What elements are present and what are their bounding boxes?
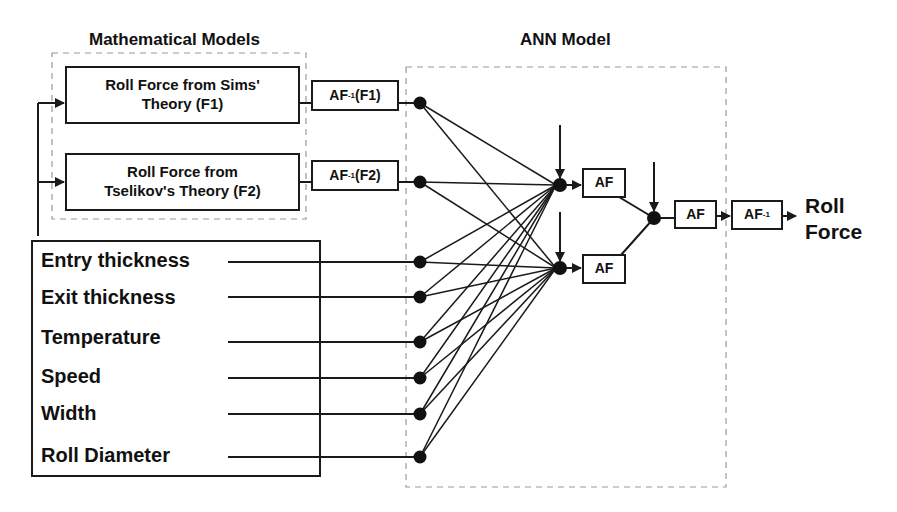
af-sup: -1: [348, 171, 355, 181]
af-prefix: AF: [329, 87, 348, 105]
input-roll-diameter: Roll Diameter: [41, 444, 170, 467]
tselikov-theory-box: Roll Force from Tselikov's Theory (F2): [65, 153, 300, 211]
output-label-line2: Force: [805, 219, 862, 245]
input-width: Width: [41, 402, 96, 425]
output-inverse-af-box: AF-1: [731, 200, 783, 230]
tselikov-theory-line2: Tselikov's Theory (F2): [104, 182, 261, 201]
input-features-box: [31, 240, 321, 477]
af-sup: -1: [763, 210, 770, 220]
af-prefix: AF: [744, 206, 763, 224]
af-suffix: (F2): [355, 167, 381, 185]
tselikov-theory-line1: Roll Force from: [127, 163, 238, 182]
output-label-line1: Roll: [805, 193, 862, 219]
hidden-af-2-box: AF: [582, 254, 626, 284]
inverse-af-f1-box: AF-1(F1): [311, 80, 399, 111]
ann-model-group: [406, 67, 726, 487]
af-prefix: AF: [329, 167, 348, 185]
input-entry-thickness: Entry thickness: [41, 249, 190, 272]
math-models-title: Mathematical Models: [89, 30, 260, 50]
output-af-box: AF: [674, 200, 717, 229]
ann-model-title: ANN Model: [520, 30, 611, 50]
af-sup: -1: [348, 91, 355, 101]
sims-theory-line2: Theory (F1): [142, 95, 224, 114]
sims-theory-line1: Roll Force from Sims': [105, 76, 259, 95]
input-exit-thickness: Exit thickness: [41, 286, 176, 309]
inverse-af-f2-box: AF-1(F2): [311, 160, 399, 191]
hidden-af-1-box: AF: [582, 168, 626, 198]
output-label: Roll Force: [805, 193, 862, 245]
input-temperature: Temperature: [41, 326, 161, 349]
input-speed: Speed: [41, 365, 101, 388]
sims-theory-box: Roll Force from Sims' Theory (F1): [65, 66, 300, 124]
af-suffix: (F1): [355, 87, 381, 105]
